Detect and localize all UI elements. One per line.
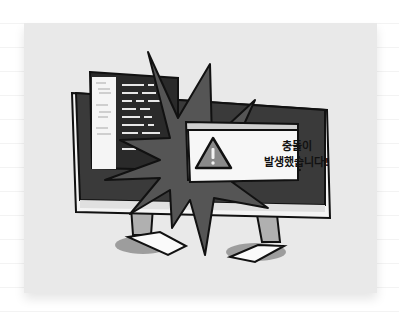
alert-message-line1: 충돌이 [247, 139, 347, 155]
monitor-stand-right [226, 215, 286, 262]
alert-message-line2: 발생했습니다! [247, 155, 347, 171]
alert-message: 충돌이 발생했습니다! [247, 139, 347, 171]
